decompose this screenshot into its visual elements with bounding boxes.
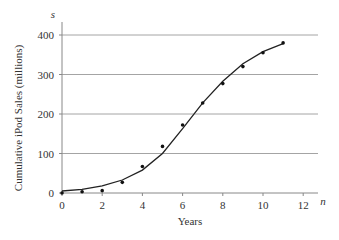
x-tick-label: 4: [140, 199, 146, 211]
data-point: [201, 101, 205, 105]
data-points: [60, 41, 285, 195]
data-point: [161, 145, 165, 149]
x-tick-label: 10: [258, 199, 270, 211]
y-axis-label: Cumulative iPod Sales (millions): [12, 44, 25, 191]
y-tick-label: 300: [38, 69, 55, 81]
y-tick-label: 0: [49, 187, 55, 199]
data-point: [80, 190, 84, 194]
data-point: [181, 123, 185, 127]
x-tick-label: 0: [59, 199, 65, 211]
y-axis-variable: s: [51, 8, 55, 20]
x-tick-label: 6: [180, 199, 186, 211]
data-point: [261, 51, 265, 55]
data-point: [221, 82, 225, 86]
data-point: [241, 65, 245, 69]
y-tick-label: 100: [38, 148, 55, 160]
data-point: [100, 189, 104, 193]
data-point: [281, 41, 285, 45]
x-tick-label: 8: [220, 199, 226, 211]
data-point: [141, 165, 145, 169]
data-point: [121, 181, 125, 185]
x-tick-label: 12: [298, 199, 309, 211]
x-tick-label: 2: [99, 199, 105, 211]
x-axis-label: Years: [178, 215, 203, 227]
y-tick-label: 400: [38, 29, 55, 41]
fitted-curve: [62, 44, 283, 191]
x-axis-variable: n: [320, 195, 326, 207]
y-tick-label: 200: [38, 108, 55, 120]
x-tick-labels: 024681012: [59, 199, 308, 211]
chart: 0100200300400 024681012 Cumulative iPod …: [0, 0, 339, 240]
data-point: [60, 191, 64, 195]
axes: [59, 22, 318, 196]
gridlines: [62, 35, 318, 154]
y-tick-labels: 0100200300400: [38, 29, 55, 199]
